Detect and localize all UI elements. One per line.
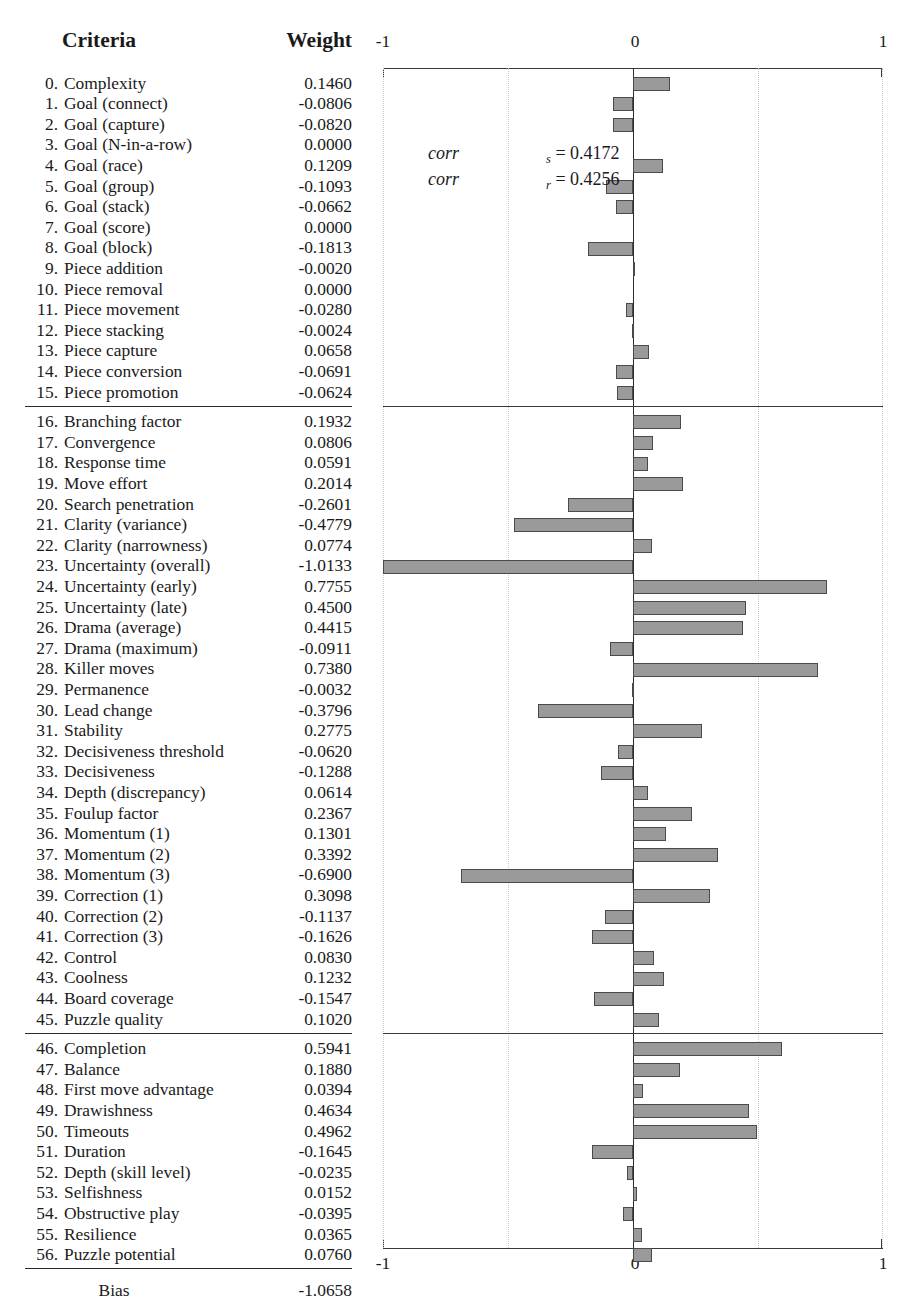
row-weight-value: 0.4962 [236, 1121, 352, 1142]
chart-bar [592, 1145, 633, 1159]
row-index: 13. [14, 340, 58, 361]
chart-bar [632, 324, 634, 338]
row-index: 3. [14, 134, 58, 155]
row-criterion-label: Goal (N-in-a-row) [64, 134, 254, 155]
row-weight-value: 0.4415 [236, 617, 352, 638]
row-weight-value: -0.0024 [236, 320, 352, 341]
row-index: 20. [14, 494, 58, 515]
row-index: 18. [14, 452, 58, 473]
chart-bar [616, 200, 633, 214]
corr-s-value: = 0.4172 [555, 143, 619, 163]
chart-bar [588, 242, 633, 256]
table-row: 24.Uncertainty (early)0.7755 [0, 576, 372, 597]
table-rows: 0.Complexity0.14601.Goal (connect)-0.080… [0, 0, 372, 1309]
criteria-weights-table: Criteria Weight 0.Complexity0.14601.Goal… [0, 0, 372, 1309]
row-weight-value: 0.7380 [236, 658, 352, 679]
row-weight-value: 0.1232 [236, 967, 352, 988]
table-row: 55.Resilience0.0365 [0, 1224, 372, 1245]
table-row: 19.Move effort0.2014 [0, 473, 372, 494]
table-row: 16.Branching factor0.1932 [0, 411, 372, 432]
table-row: 29.Permanence-0.0032 [0, 679, 372, 700]
row-index: 4. [14, 155, 58, 176]
row-weight-value: 0.0152 [236, 1182, 352, 1203]
row-index: 8. [14, 237, 58, 258]
table-row: 0.Complexity0.1460 [0, 73, 372, 94]
chart-bar [633, 477, 683, 491]
row-index: 16. [14, 411, 58, 432]
row-weight-value: -0.4779 [236, 514, 352, 535]
row-weight-value: -0.0032 [236, 679, 352, 700]
chart-bar [594, 992, 633, 1006]
row-criterion-label: Uncertainty (late) [64, 597, 254, 618]
row-weight-value: -0.1626 [236, 926, 352, 947]
table-row: 14.Piece conversion-0.0691 [0, 361, 372, 382]
row-index: 50. [14, 1121, 58, 1142]
table-row: 51.Duration-0.1645 [0, 1141, 372, 1162]
table-row: 33.Decisiveness-0.1288 [0, 761, 372, 782]
gridline-minus-0-5 [508, 68, 509, 1248]
row-criterion-label: Piece movement [64, 299, 254, 320]
chart-bar [613, 97, 633, 111]
corr-r-name: corr [428, 169, 546, 190]
row-criterion-label: Depth (discrepancy) [64, 782, 254, 803]
chart-bar [538, 704, 633, 718]
row-weight-value: -0.0911 [236, 638, 352, 659]
table-row: 56.Puzzle potential0.0760 [0, 1244, 372, 1265]
chart-bar [633, 77, 670, 91]
chart-bar [514, 518, 633, 532]
chart-bar [633, 1063, 680, 1077]
row-weight-value: -0.1137 [236, 906, 352, 927]
row-weight-value: 0.4500 [236, 597, 352, 618]
row-weight-value: 0.0658 [236, 340, 352, 361]
chart-section-separator [383, 1033, 883, 1034]
table-row: 7.Goal (score)0.0000 [0, 217, 372, 238]
row-weight-value: 0.0830 [236, 947, 352, 968]
row-index: 27. [14, 638, 58, 659]
table-row: 48.First move advantage0.0394 [0, 1079, 372, 1100]
axis-bottom-max-label: 1 [863, 1253, 903, 1274]
row-criterion-label: Uncertainty (overall) [64, 555, 254, 576]
chart-bar [383, 560, 633, 574]
chart-bar [633, 724, 702, 738]
row-criterion-label: Goal (capture) [64, 114, 254, 135]
chart-bar [618, 745, 634, 759]
row-weight-value: 0.3098 [236, 885, 352, 906]
row-index: 15. [14, 382, 58, 403]
table-row: 30.Lead change-0.3796 [0, 700, 372, 721]
row-criterion-label: Stability [64, 720, 254, 741]
row-weight-value: 0.0000 [236, 217, 352, 238]
row-index: 39. [14, 885, 58, 906]
table-row: 10.Piece removal0.0000 [0, 279, 372, 300]
row-criterion-label: Search penetration [64, 494, 254, 515]
row-criterion-label: Goal (score) [64, 217, 254, 238]
table-row: 3.Goal (N-in-a-row)0.0000 [0, 134, 372, 155]
table-row: 36.Momentum (1)0.1301 [0, 823, 372, 844]
corr-r-subscript: r [546, 178, 551, 192]
row-weight-value: 0.0000 [236, 134, 352, 155]
gridline-plus-1 [882, 68, 883, 1248]
row-index: 25. [14, 597, 58, 618]
chart-bar [461, 869, 634, 883]
table-row: 43.Coolness0.1232 [0, 967, 372, 988]
correlation-pearson-annotation: corrr = 0.4256 [428, 169, 620, 193]
row-criterion-label: Goal (race) [64, 155, 254, 176]
row-weight-value: -0.1813 [236, 237, 352, 258]
row-index: 11. [14, 299, 58, 320]
row-weight-value: -0.0691 [236, 361, 352, 382]
row-index: 30. [14, 700, 58, 721]
row-criterion-label: Drama (maximum) [64, 638, 254, 659]
row-criterion-label: Piece addition [64, 258, 254, 279]
row-index: 2. [14, 114, 58, 135]
chart-bar [633, 1187, 637, 1201]
row-weight-value: 0.0365 [236, 1224, 352, 1245]
row-index: 19. [14, 473, 58, 494]
table-section-separator [25, 406, 352, 407]
table-row: 37.Momentum (2)0.3392 [0, 844, 372, 865]
row-weight-value: 0.3392 [236, 844, 352, 865]
table-row: 54.Obstructive play-0.0395 [0, 1203, 372, 1224]
row-index: 0. [14, 73, 58, 94]
chart-bar [601, 766, 633, 780]
row-index: 45. [14, 1009, 58, 1030]
axis-bottom-min-label: -1 [363, 1253, 403, 1274]
table-row: 46.Completion0.5941 [0, 1038, 372, 1059]
